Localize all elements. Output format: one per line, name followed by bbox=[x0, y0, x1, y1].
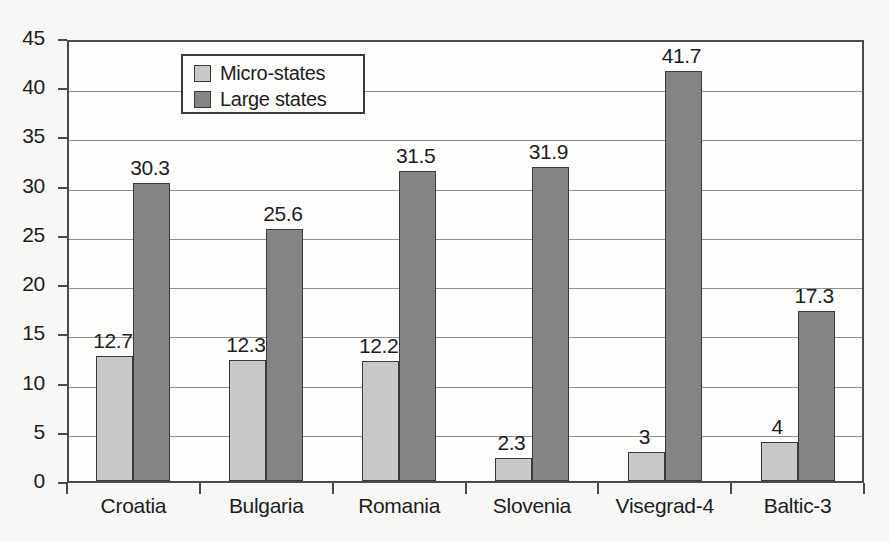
legend-swatch-large-states-icon bbox=[194, 91, 211, 108]
y-tick-label: 45 bbox=[0, 26, 45, 50]
y-tick-label: 0 bbox=[0, 469, 45, 493]
bar-bulgaria-micro-states[interactable] bbox=[229, 360, 266, 481]
y-tick-mark bbox=[58, 236, 67, 238]
legend-item-micro-states: Micro-states bbox=[194, 60, 363, 86]
x-tick-mark bbox=[863, 483, 865, 494]
y-tick-label: 25 bbox=[0, 223, 45, 247]
bar-romania-micro-states[interactable] bbox=[362, 361, 399, 481]
x-category-label-bulgaria: Bulgaria bbox=[190, 494, 343, 518]
bar-value-label: 12.7 bbox=[78, 329, 147, 353]
gridline bbox=[69, 190, 862, 191]
bar-value-label: 17.3 bbox=[780, 284, 849, 308]
y-tick-mark bbox=[58, 187, 67, 189]
legend-label-micro-states: Micro-states bbox=[220, 62, 325, 85]
x-tick-mark bbox=[66, 483, 68, 494]
y-tick-label: 10 bbox=[0, 371, 45, 395]
y-tick-label: 40 bbox=[0, 75, 45, 99]
bar-value-label: 41.7 bbox=[647, 44, 716, 68]
bar-value-label: 4 bbox=[743, 415, 812, 439]
gridline bbox=[69, 140, 862, 141]
x-category-label-slovenia: Slovenia bbox=[456, 494, 609, 518]
x-category-label-visegrad-4: Visegrad-4 bbox=[588, 494, 741, 518]
y-tick-mark bbox=[58, 334, 67, 336]
y-tick-label: 30 bbox=[0, 174, 45, 198]
bar-value-label: 3 bbox=[610, 425, 679, 449]
x-tick-mark bbox=[465, 483, 467, 494]
x-tick-mark bbox=[730, 483, 732, 494]
x-tick-mark bbox=[332, 483, 334, 494]
y-tick-label: 35 bbox=[0, 124, 45, 148]
gridline bbox=[69, 239, 862, 240]
chart-legend: Micro-states Large states bbox=[181, 54, 365, 114]
bar-visegrad-4-micro-states[interactable] bbox=[628, 452, 665, 482]
x-category-label-croatia: Croatia bbox=[57, 494, 210, 518]
y-tick-mark bbox=[58, 384, 67, 386]
x-tick-mark bbox=[597, 483, 599, 494]
bar-croatia-micro-states[interactable] bbox=[96, 356, 133, 481]
y-tick-mark bbox=[58, 433, 67, 435]
bar-value-label: 30.3 bbox=[115, 156, 184, 180]
gridline bbox=[69, 337, 862, 338]
y-tick-label: 20 bbox=[0, 272, 45, 296]
y-tick-mark bbox=[58, 285, 67, 287]
bar-romania-large-states[interactable] bbox=[399, 171, 436, 481]
y-tick-mark bbox=[58, 88, 67, 90]
y-tick-mark bbox=[58, 137, 67, 139]
bar-baltic-3-large-states[interactable] bbox=[798, 311, 835, 481]
bar-value-label: 12.2 bbox=[344, 334, 413, 358]
bar-visegrad-4-large-states[interactable] bbox=[665, 71, 702, 482]
x-category-label-romania: Romania bbox=[323, 494, 476, 518]
legend-label-large-states: Large states bbox=[220, 88, 326, 111]
bar-value-label: 12.3 bbox=[211, 333, 280, 357]
bar-value-label: 2.3 bbox=[477, 431, 546, 455]
y-tick-mark bbox=[58, 39, 67, 41]
y-tick-label: 5 bbox=[0, 420, 45, 444]
x-category-label-baltic-3: Baltic-3 bbox=[721, 494, 874, 518]
gridline bbox=[69, 387, 862, 388]
y-tick-label: 15 bbox=[0, 321, 45, 345]
legend-item-large-states: Large states bbox=[194, 86, 363, 112]
bar-value-label: 31.5 bbox=[381, 144, 450, 168]
bar-value-label: 25.6 bbox=[248, 202, 317, 226]
bar-slovenia-micro-states[interactable] bbox=[495, 458, 532, 481]
legend-swatch-micro-states-icon bbox=[194, 65, 211, 82]
bar-baltic-3-micro-states[interactable] bbox=[761, 442, 798, 481]
x-tick-mark bbox=[199, 483, 201, 494]
bar-chart: 454035302520151050 12.730.312.325.612.23… bbox=[0, 0, 889, 542]
bar-value-label: 31.9 bbox=[514, 140, 583, 164]
gridline bbox=[69, 288, 862, 289]
